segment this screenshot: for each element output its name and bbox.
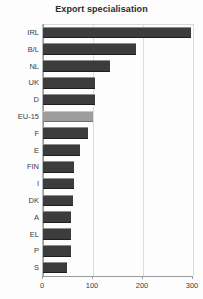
- bar-row: [43, 209, 192, 226]
- bar-row: [43, 24, 192, 41]
- y-label-p: P: [1, 246, 39, 255]
- bar-row: [43, 192, 192, 209]
- bar-e: [43, 144, 80, 156]
- xtick-label-0: 0: [27, 281, 57, 290]
- xtick-mark-200: [142, 276, 143, 279]
- y-label-i: I: [1, 179, 39, 188]
- bar-fin: [43, 161, 74, 173]
- gridline-300: [193, 24, 194, 276]
- bar-d: [43, 94, 95, 106]
- xtick-label-300: 300: [177, 281, 203, 290]
- export-specialisation-chart: Export specialisation IRLB/LNLUKDEU-15FE…: [0, 0, 203, 299]
- bar-eu-15: [43, 111, 93, 123]
- y-axis-category-labels: IRLB/LNLUKDEU-15FEFINIDKAELPS: [0, 24, 39, 276]
- y-label-s: S: [1, 263, 39, 272]
- bar-row: [43, 175, 192, 192]
- y-label-b-l: B/L: [1, 45, 39, 54]
- x-axis-line: [42, 276, 193, 277]
- bar-row: [43, 242, 192, 259]
- bar-uk: [43, 77, 95, 89]
- bar-dk: [43, 195, 73, 207]
- y-label-a: A: [1, 213, 39, 222]
- bar-row: [43, 259, 192, 276]
- bar-el: [43, 228, 71, 240]
- xtick-mark-0: [42, 276, 43, 279]
- xtick-mark-100: [92, 276, 93, 279]
- y-label-fin: FIN: [1, 162, 39, 171]
- bar-i: [43, 178, 74, 190]
- y-label-irl: IRL: [1, 28, 39, 37]
- plot-area: [42, 24, 192, 276]
- bar-p: [43, 245, 71, 257]
- y-label-nl: NL: [1, 62, 39, 71]
- bar-s: [43, 262, 67, 274]
- y-label-el: EL: [1, 230, 39, 239]
- xtick-mark-300: [192, 276, 193, 279]
- y-label-eu-15: EU-15: [1, 112, 39, 121]
- bar-row: [43, 142, 192, 159]
- bar-row: [43, 158, 192, 175]
- y-label-dk: DK: [1, 196, 39, 205]
- bar-b-l: [43, 43, 136, 55]
- bar-a: [43, 211, 71, 223]
- xtick-label-200: 200: [127, 281, 157, 290]
- bar-row: [43, 41, 192, 58]
- bar-row: [43, 108, 192, 125]
- bar-row: [43, 125, 192, 142]
- bar-row: [43, 91, 192, 108]
- bar-row: [43, 226, 192, 243]
- bar-nl: [43, 60, 110, 72]
- y-label-d: D: [1, 95, 39, 104]
- bar-row: [43, 58, 192, 75]
- xtick-label-100: 100: [77, 281, 107, 290]
- y-label-uk: UK: [1, 78, 39, 87]
- chart-title: Export specialisation: [0, 4, 203, 15]
- bar-row: [43, 74, 192, 91]
- y-label-f: F: [1, 129, 39, 138]
- bar-f: [43, 127, 88, 139]
- bar-irl: [43, 27, 191, 39]
- y-label-e: E: [1, 146, 39, 155]
